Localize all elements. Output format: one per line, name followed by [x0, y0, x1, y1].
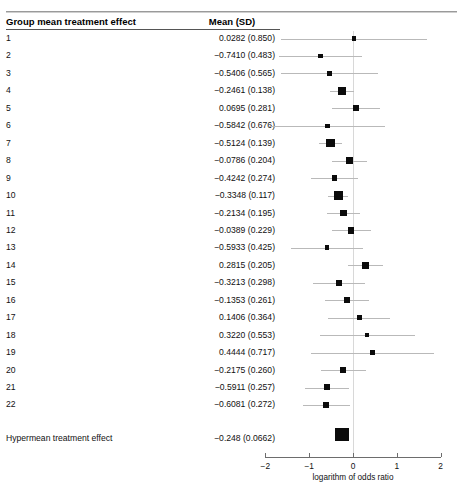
row-label: 9: [6, 173, 11, 183]
x-axis-tick-label: 0: [341, 461, 365, 471]
row-value: −0.2175 (0.260): [150, 365, 275, 375]
row-label: 15: [6, 277, 16, 287]
table-row: 13−0.5933 (0.425): [0, 242, 463, 256]
x-axis-tick-label: −1: [297, 461, 321, 471]
row-label: 20: [6, 365, 16, 375]
row-label: 21: [6, 382, 16, 392]
row-value: 0.1406 (0.364): [150, 312, 275, 322]
row-value: 0.4444 (0.717): [150, 347, 275, 357]
row-label: 10: [6, 190, 16, 200]
x-axis-tick-label: −2: [253, 461, 277, 471]
column-header-mean: Mean (SD): [193, 16, 271, 27]
x-axis-tick: [265, 453, 266, 457]
table-row: 190.4444 (0.717): [0, 347, 463, 361]
row-label: 2: [6, 50, 11, 60]
summary-row: Hypermean treatment effect−0.248 (0.0662…: [0, 433, 463, 447]
x-axis-tick: [397, 453, 398, 457]
row-value: −0.6081 (0.272): [150, 399, 275, 409]
row-value: −0.4242 (0.274): [150, 173, 275, 183]
page-top-rule-shadow: [6, 12, 457, 13]
x-axis-tick-label: 1: [385, 461, 409, 471]
row-value: −0.1353 (0.261): [150, 295, 275, 305]
summary-value: −0.248 (0.0662): [150, 433, 275, 443]
row-label: 4: [6, 85, 11, 95]
x-axis-tick: [353, 453, 354, 457]
row-label: 6: [6, 120, 11, 130]
row-label: 8: [6, 155, 11, 165]
row-value: −0.7410 (0.483): [150, 50, 275, 60]
row-value: −0.5406 (0.565): [150, 68, 275, 78]
table-row: 20−0.2175 (0.260): [0, 365, 463, 379]
table-row: 10−0.3348 (0.117): [0, 190, 463, 204]
table-row: 12−0.0389 (0.229): [0, 225, 463, 239]
table-row: 140.2815 (0.205): [0, 260, 463, 274]
row-value: −0.5911 (0.257): [150, 382, 275, 392]
x-axis-line: [265, 457, 440, 458]
row-label: 11: [6, 208, 15, 218]
row-label: 5: [6, 103, 11, 113]
row-value: −0.5933 (0.425): [150, 242, 275, 252]
row-label: 16: [6, 295, 16, 305]
x-axis-title: logarithm of odds ratio: [265, 473, 440, 482]
table-row: 22−0.6081 (0.272): [0, 399, 463, 413]
row-label: 17: [6, 312, 16, 322]
row-label: 13: [6, 242, 16, 252]
header-divider: [6, 29, 280, 30]
row-label: 1: [6, 33, 11, 43]
x-axis-tick: [441, 453, 442, 457]
table-row: 10.0282 (0.850): [0, 33, 463, 47]
table-row: 9−0.4242 (0.274): [0, 173, 463, 187]
table-row: 2−0.7410 (0.483): [0, 50, 463, 64]
row-value: −0.3348 (0.117): [150, 190, 275, 200]
row-label: 14: [6, 260, 16, 270]
table-row: 11−0.2134 (0.195): [0, 208, 463, 222]
table-row: 50.0695 (0.281): [0, 103, 463, 117]
table-row: 3−0.5406 (0.565): [0, 68, 463, 82]
row-label: 3: [6, 68, 11, 78]
row-label: 7: [6, 138, 11, 148]
row-value: −0.2461 (0.138): [150, 85, 275, 95]
table-row: 6−0.5842 (0.676): [0, 120, 463, 134]
x-axis-tick: [309, 453, 310, 457]
table-row: 180.3220 (0.553): [0, 330, 463, 344]
row-label: 18: [6, 330, 16, 340]
table-row: 7−0.5124 (0.139): [0, 138, 463, 152]
table-row: 170.1406 (0.364): [0, 312, 463, 326]
row-value: −0.0786 (0.204): [150, 155, 275, 165]
row-value: −0.2134 (0.195): [150, 208, 275, 218]
row-value: 0.0695 (0.281): [150, 103, 275, 113]
row-value: 0.3220 (0.553): [150, 330, 275, 340]
row-label: 19: [6, 347, 16, 357]
table-row: 15−0.3213 (0.298): [0, 277, 463, 291]
table-row: 4−0.2461 (0.138): [0, 85, 463, 99]
row-value: −0.5842 (0.676): [150, 120, 275, 130]
row-value: −0.5124 (0.139): [150, 138, 275, 148]
summary-label: Hypermean treatment effect: [6, 433, 112, 443]
row-value: 0.0282 (0.850): [150, 33, 275, 43]
table-header: Group mean treatment effect Mean (SD): [0, 16, 463, 30]
column-header-group: Group mean treatment effect: [6, 16, 136, 27]
row-value: 0.2815 (0.205): [150, 260, 275, 270]
row-value: −0.3213 (0.298): [150, 277, 275, 287]
row-label: 22: [6, 399, 16, 409]
row-value: −0.0389 (0.229): [150, 225, 275, 235]
row-label: 12: [6, 225, 16, 235]
table-row: 8−0.0786 (0.204): [0, 155, 463, 169]
table-row: 16−0.1353 (0.261): [0, 295, 463, 309]
x-axis-tick-label: 2: [429, 461, 453, 471]
table-row: 21−0.5911 (0.257): [0, 382, 463, 396]
